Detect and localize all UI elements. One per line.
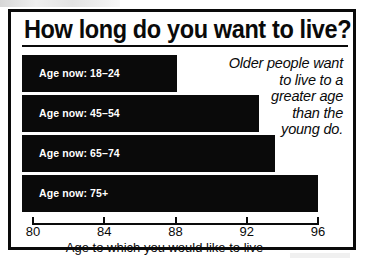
bar-label: Age now: 65–74	[39, 135, 120, 172]
figure-frame: How long do you want to live? Age now: 1…	[8, 9, 356, 250]
axis-tick-label: 92	[240, 224, 254, 239]
bar-label: Age now: 18–24	[39, 55, 120, 92]
x-axis-label: Age to which you would like to live	[22, 240, 307, 256]
axis-tick-label: 96	[311, 224, 325, 239]
scan-artifact-top	[0, 0, 120, 7]
bar-row[interactable]: Age now: 18–24	[22, 55, 177, 92]
annotation-line: Older people want	[191, 55, 343, 72]
axis-tick-label: 80	[26, 224, 40, 239]
chart-figure: How long do you want to live? Age now: 1…	[0, 0, 366, 262]
annotation-line: young do.	[191, 121, 343, 138]
bar-label: Age now: 75+	[39, 175, 108, 212]
bar-label: Age now: 45–54	[39, 95, 120, 132]
axis-tick-labels: 8084889296	[22, 224, 349, 239]
chart-title: How long do you want to live?	[24, 15, 330, 44]
chart-annotation: Older people want to live to a greater a…	[191, 55, 343, 138]
bar-row[interactable]: Age now: 75+	[22, 175, 318, 212]
plot-area: Age now: 18–24 Age now: 45–54 Age now: 6…	[22, 47, 349, 217]
axis-tick-label: 88	[168, 224, 182, 239]
bar-row[interactable]: Age now: 65–74	[22, 135, 275, 172]
annotation-line: to live to a	[191, 72, 343, 89]
annotation-line: greater age	[191, 88, 343, 105]
axis-tick-label: 84	[97, 224, 111, 239]
annotation-line: than the	[191, 105, 343, 122]
